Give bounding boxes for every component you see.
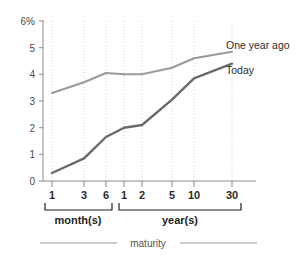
month-group-label: month(s): [54, 214, 101, 226]
legend-label-one-year-ago: One year ago: [226, 39, 290, 51]
x-tick-label-10y: 10: [188, 189, 200, 201]
x-tick-label-5y: 5: [169, 189, 175, 201]
y-tick-labels: 6% 5 4 3 2 1 0: [21, 16, 36, 187]
year-group-bracket: [119, 203, 241, 210]
y-tick-label-3: 3: [29, 96, 35, 107]
yield-curve-chart: 6% 5 4 3 2 1 0 1 3 6 1 2 5 10: [0, 0, 297, 258]
x-tick-label-1m: 1: [49, 189, 55, 201]
y-tick-label-2: 2: [29, 123, 35, 134]
x-tick-label-3m: 3: [81, 189, 87, 201]
x-tick-labels: 1 3 6 1 2 5 10 30: [49, 189, 238, 201]
y-tick-label-0: 0: [29, 176, 35, 187]
y-tick-label-1: 1: [29, 149, 35, 160]
x-axis-caption: maturity: [130, 238, 166, 249]
gridlines: [52, 21, 232, 181]
month-group-bracket: [45, 203, 112, 210]
y-tick-label-6: 6%: [21, 16, 36, 27]
x-tick-marks: [52, 181, 232, 187]
year-group-label: year(s): [162, 214, 198, 226]
y-tick-label-5: 5: [29, 43, 35, 54]
x-tick-label-1y: 1: [121, 189, 127, 201]
legend-label-today: Today: [226, 64, 255, 76]
chart-canvas: 6% 5 4 3 2 1 0 1 3 6 1 2 5 10: [0, 0, 297, 258]
x-tick-label-2y: 2: [139, 189, 145, 201]
y-tick-marks: [39, 21, 43, 181]
y-tick-label-4: 4: [29, 69, 35, 80]
x-tick-label-30y: 30: [226, 189, 238, 201]
x-tick-label-6m: 6: [103, 189, 109, 201]
